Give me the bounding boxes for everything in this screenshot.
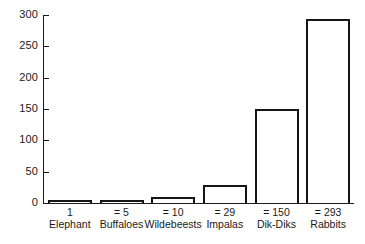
bar-dik-diks[interactable]: [255, 109, 299, 203]
x-category-label: Rabbits: [296, 218, 360, 230]
bar-elephant[interactable]: [48, 200, 92, 203]
bar-impalas[interactable]: [203, 185, 247, 203]
x-value-label: = 293: [296, 206, 360, 218]
bar-buffaloes[interactable]: [100, 200, 144, 203]
bar-rabbits[interactable]: [306, 19, 350, 203]
bar-wildebeests[interactable]: [151, 197, 195, 203]
x-label-group-rabbits: = 293Rabbits: [296, 206, 360, 230]
bar-chart: 300250200150100500 1Elephant= 5Buffaloes…: [0, 0, 365, 244]
